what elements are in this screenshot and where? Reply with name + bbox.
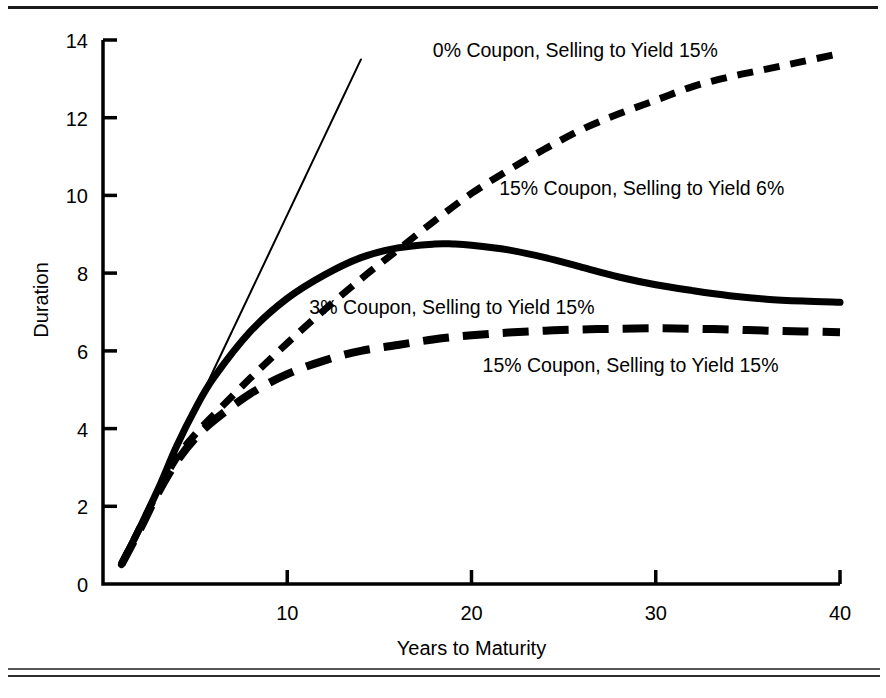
y-tick-label-0: 0: [77, 574, 88, 596]
figure-container: 14 12 10 8 6 4 2 0 10 20 30 40 Years to …: [0, 0, 886, 698]
bottom-rule-divider: [8, 668, 880, 682]
bottom-rule-line-1: [8, 668, 880, 670]
y-tick-label-10: 10: [66, 185, 88, 207]
y-tick-label-12: 12: [66, 108, 88, 130]
series-label-4: 15% Coupon, Selling to Yield 15%: [483, 354, 779, 376]
y-tick-label-4: 4: [77, 419, 88, 441]
x-axis-title: Years to Maturity: [397, 637, 546, 659]
y-tick-label-14: 14: [66, 30, 88, 52]
y-tick-label-6: 6: [77, 341, 88, 363]
x-tick-labels: 10 20 30 40: [276, 602, 851, 624]
y-tick-label-8: 8: [77, 263, 88, 285]
x-tick-label-10: 10: [276, 602, 298, 624]
x-tick-label-30: 30: [645, 602, 667, 624]
y-tick-label-2: 2: [77, 496, 88, 518]
series-label-3: 3% Coupon, Selling to Yield 15%: [309, 296, 594, 318]
series-line-3: [121, 244, 840, 565]
series-label-2: 15% Coupon, Selling to Yield 6%: [499, 177, 784, 199]
series-label-1: 0% Coupon, Selling to Yield 15%: [433, 39, 718, 61]
duration-line-chart: 14 12 10 8 6 4 2 0 10 20 30 40 Years to …: [0, 0, 886, 698]
y-axis-title: Duration: [30, 262, 52, 338]
y-tick-labels: 14 12 10 8 6 4 2 0: [66, 30, 88, 596]
y-axis-ticks: [103, 40, 117, 506]
x-axis-ticks: [287, 570, 840, 584]
bottom-rule-line-2: [8, 675, 880, 677]
x-tick-label-20: 20: [460, 602, 482, 624]
x-tick-label-40: 40: [829, 602, 851, 624]
